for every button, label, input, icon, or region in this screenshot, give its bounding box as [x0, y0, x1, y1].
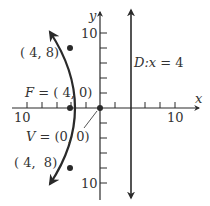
lower-point [67, 165, 73, 171]
vertex-point [97, 105, 103, 111]
y-axis-label: y [88, 8, 97, 23]
vertex-leader-line [84, 111, 97, 128]
directrix-label: D:x = 4 [133, 55, 184, 70]
focus-point [67, 105, 73, 111]
parabola-diagram: y 10 10 x 10 10 D:x = 4 F = ( 4, 0) V = … [0, 0, 210, 206]
upper-point [67, 45, 73, 51]
vertex-label: V = (0, 0) [26, 129, 90, 144]
y-tick-top-label: 10 [81, 26, 98, 41]
lower-point-label: ( 4, 8) [14, 155, 57, 170]
focus-label: F = ( 4, 0) [24, 85, 92, 100]
y-tick-bottom-label: 10 [81, 176, 98, 191]
x-axis-label: x [195, 91, 203, 106]
upper-point-label: ( 4, 8) [20, 45, 59, 60]
x-tick-right-label: 10 [167, 110, 184, 125]
x-tick-left-label: 10 [14, 110, 31, 125]
